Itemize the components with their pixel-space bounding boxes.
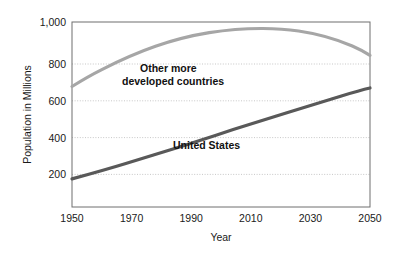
y-tick-label-1000: 1,000 xyxy=(40,16,66,28)
chart-figure: 1,000 800 600 400 200 1950 1970 1990 201… xyxy=(0,0,399,262)
x-tick-label-1950: 1950 xyxy=(60,212,84,224)
plot-area-frame xyxy=(72,22,370,207)
x-tick-label-2010: 2010 xyxy=(239,212,263,224)
series-line-united-states xyxy=(72,88,370,179)
y-axis-title: Population in Millions xyxy=(21,65,33,164)
y-tick-label-400: 400 xyxy=(48,132,66,144)
series-annotation-other-developed: Other more developed countries xyxy=(122,62,224,87)
x-axis-tick-labels: 1950 1970 1990 2010 2030 2050 xyxy=(60,212,382,224)
series-annotation-other-developed-line2: developed countries xyxy=(122,75,224,87)
x-tick-label-2030: 2030 xyxy=(299,212,323,224)
y-tick-label-200: 200 xyxy=(48,168,66,180)
x-axis-title: Year xyxy=(210,231,232,243)
y-axis-tick-labels: 1,000 800 600 400 200 xyxy=(40,16,66,180)
population-line-chart: 1,000 800 600 400 200 1950 1970 1990 201… xyxy=(0,0,399,262)
series-annotation-united-states: United States xyxy=(173,139,240,151)
x-tick-label-1990: 1990 xyxy=(180,212,204,224)
series-annotation-other-developed-line1: Other more xyxy=(140,62,197,74)
y-tick-label-800: 800 xyxy=(48,58,66,70)
y-tick-label-600: 600 xyxy=(48,95,66,107)
x-tick-label-2050: 2050 xyxy=(358,212,382,224)
x-tick-label-1970: 1970 xyxy=(120,212,144,224)
